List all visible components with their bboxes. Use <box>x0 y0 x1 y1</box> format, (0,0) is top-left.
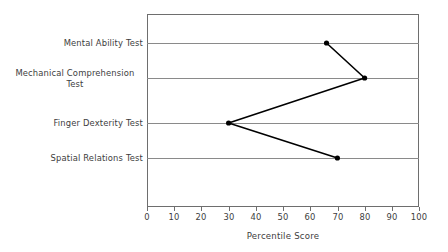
tick-mark-60 <box>310 207 311 211</box>
tick-label-0: 0 <box>144 212 149 222</box>
tick-label-90: 90 <box>387 212 398 222</box>
tick-label-10: 10 <box>169 212 180 222</box>
gridline-category-1 <box>147 78 419 79</box>
tick-mark-70 <box>338 207 339 211</box>
tick-mark-90 <box>392 207 393 211</box>
tick-mark-50 <box>283 207 284 211</box>
tick-mark-10 <box>174 207 175 211</box>
tick-label-20: 20 <box>196 212 207 222</box>
category-label-finger-dexterity-test: Finger Dexterity Test <box>7 118 143 129</box>
tick-label-50: 50 <box>278 212 289 222</box>
gridline-category-0 <box>147 43 419 44</box>
tick-label-80: 80 <box>360 212 371 222</box>
tick-label-70: 70 <box>333 212 344 222</box>
gridline-category-2 <box>147 123 419 124</box>
tick-label-40: 40 <box>251 212 262 222</box>
category-label-spatial-relations-test: Spatial Relations Test <box>7 153 143 164</box>
tick-mark-40 <box>256 207 257 211</box>
profile-chart: Mental Ability Test Mechanical Comprehen… <box>0 0 448 252</box>
tick-label-60: 60 <box>305 212 316 222</box>
tick-mark-80 <box>365 207 366 211</box>
x-axis-title: Percentile Score <box>147 231 419 241</box>
gridline-category-3 <box>147 158 419 159</box>
category-label-mechanical-comprehension-test: Mechanical Comprehension Test <box>7 68 143 89</box>
tick-mark-30 <box>229 207 230 211</box>
tick-mark-0 <box>147 207 148 211</box>
tick-mark-20 <box>201 207 202 211</box>
tick-label-30: 30 <box>224 212 235 222</box>
tick-label-100: 100 <box>411 212 427 222</box>
tick-mark-100 <box>419 207 420 211</box>
category-label-mental-ability-test: Mental Ability Test <box>7 38 143 49</box>
